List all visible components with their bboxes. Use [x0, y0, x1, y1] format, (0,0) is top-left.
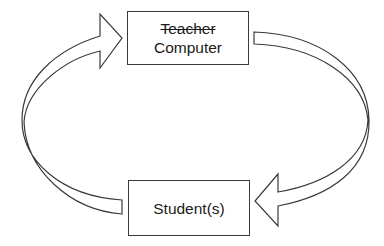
- students-box: Student(s): [128, 180, 250, 236]
- computer-box: Teacher Computer: [127, 11, 249, 65]
- teacher-label-struck: Teacher: [160, 19, 215, 38]
- curved-arrow-right-icon: [254, 32, 369, 226]
- students-label: Student(s): [153, 199, 225, 218]
- computer-label: Computer: [154, 38, 222, 57]
- curved-arrow-left-icon: [22, 14, 122, 214]
